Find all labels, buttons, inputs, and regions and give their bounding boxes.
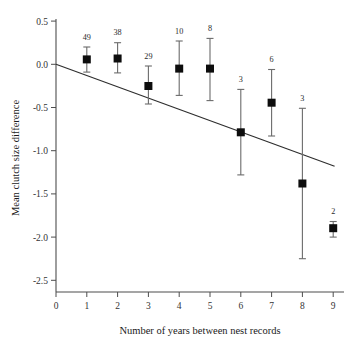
data-point-group: 6	[268, 55, 276, 136]
x-axis-ticks: 0 1 2 3 4 5 6 7 8 9	[54, 292, 336, 311]
y-tick-label: 0.5	[36, 17, 48, 27]
x-tick-label: 1	[84, 301, 89, 311]
data-point-group: 49	[83, 33, 91, 73]
sample-size-label: 29	[144, 52, 152, 61]
data-marker	[114, 55, 122, 63]
chart-figure: 0.5 0.0 -0.5 -1.0 -1.5 -2.0 -2.5 0 1 2 3…	[0, 0, 351, 348]
x-tick-label: 9	[331, 301, 336, 311]
x-tick-label: 5	[208, 301, 213, 311]
data-point-group: 2	[329, 207, 337, 237]
x-tick-label: 4	[177, 301, 182, 311]
sample-size-label: 3	[300, 94, 304, 103]
data-marker	[268, 99, 276, 107]
regression-trend-line	[56, 64, 335, 166]
sample-size-label: 38	[114, 28, 122, 37]
y-axis-title: Mean clutch size difference	[10, 100, 21, 216]
x-axis-title: Number of years between nest records	[119, 325, 280, 336]
data-marker	[175, 65, 183, 73]
x-tick-label: 6	[238, 301, 243, 311]
data-marker	[83, 55, 91, 63]
axes-group	[56, 19, 344, 292]
sample-size-label: 3	[239, 75, 243, 84]
x-tick-label: 8	[300, 301, 305, 311]
sample-size-label: 2	[331, 207, 335, 216]
data-marker	[206, 65, 214, 73]
y-tick-label: 0.0	[36, 60, 48, 70]
sample-size-label: 10	[175, 27, 183, 36]
y-tick-label: -1.0	[33, 146, 48, 156]
data-point-group: 8	[206, 24, 214, 101]
sample-size-label: 6	[270, 55, 274, 64]
data-marker	[298, 180, 306, 188]
y-tick-label: -1.5	[33, 189, 48, 199]
scatter-plot-with-error-bars: 0.5 0.0 -0.5 -1.0 -1.5 -2.0 -2.5 0 1 2 3…	[0, 0, 351, 348]
data-point-group: 29	[144, 52, 152, 105]
y-tick-label: -0.5	[33, 103, 48, 113]
x-tick-label: 7	[269, 301, 274, 311]
data-marker	[144, 82, 152, 90]
data-marker	[329, 224, 337, 232]
data-marker	[237, 128, 245, 136]
data-point-group: 3	[298, 94, 306, 259]
x-tick-label: 2	[115, 301, 120, 311]
x-tick-label: 3	[146, 301, 151, 311]
sample-size-label: 49	[83, 33, 91, 42]
data-point-group: 3	[237, 75, 245, 175]
y-tick-label: -2.0	[33, 233, 48, 243]
data-point-group: 10	[175, 27, 183, 96]
data-point-group: 38	[114, 28, 122, 73]
sample-size-label: 8	[208, 24, 212, 33]
y-axis-ticks: 0.5 0.0 -0.5 -1.0 -1.5 -2.0 -2.5	[33, 17, 56, 286]
y-tick-label: -2.5	[33, 276, 48, 286]
x-tick-label: 0	[54, 301, 59, 311]
